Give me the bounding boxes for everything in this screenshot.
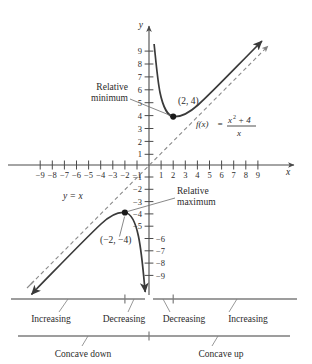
relative-maximum-point-label: (−2, −4) [100,235,131,246]
relative-maximum-point-leader [120,217,125,237]
svg-text:7: 7 [232,170,236,180]
svg-text:4: 4 [195,170,200,180]
svg-text:−6: −6 [156,234,165,244]
svg-text:−7: −7 [60,170,69,180]
svg-text:3: 3 [183,170,187,180]
svg-text:−7: −7 [156,246,165,256]
relative-minimum-point-label: (2, 4) [178,96,199,107]
concavity-label-0: Concave down [55,349,112,359]
svg-text:7: 7 [138,72,142,82]
svg-text:2: 2 [138,137,142,147]
svg-text:−2: −2 [133,184,142,194]
relative-minimum-label-line1: Relative [96,82,128,92]
svg-text:−2: −2 [120,170,129,180]
svg-text:−4: −4 [96,170,106,180]
svg-text:−9: −9 [156,271,165,281]
svg-text:5: 5 [207,170,211,180]
svg-text:1: 1 [138,149,142,159]
y-tick-labels-upper: 9 8 7 6 5 4 3 2 1 −1 −2 −3 −4 −5 [133,46,143,231]
svg-text:6: 6 [219,170,223,180]
svg-text:8: 8 [244,170,248,180]
svg-text:−3: −3 [108,170,117,180]
svg-text:−3: −3 [133,197,142,207]
graph-svg: −9 −8 −7 −6 −5 −4 −3 −2 −1 1 2 3 4 5 6 7… [0,0,312,364]
svg-text:−8: −8 [156,258,165,268]
svg-text:3: 3 [138,124,142,134]
function-formula: f(x) = x 2 + 4 x [196,114,256,138]
x-tick-labels: −9 −8 −7 −6 −5 −4 −3 −2 −1 1 2 3 4 5 6 7… [36,170,260,180]
svg-text:8: 8 [138,59,142,69]
svg-text:1: 1 [159,170,163,180]
asymptote-tail [27,281,34,288]
svg-text:2: 2 [171,170,175,180]
svg-text:9: 9 [138,46,142,56]
function-denominator: x [236,128,241,138]
svg-text:4: 4 [138,111,143,121]
y-axis-label: y [138,20,144,30]
relative-maximum-label-line1: Relative [177,186,209,196]
curve-arrow-lower-left [32,289,37,295]
monotonicity-bar: Increasing Decreasing Decreasing Increas… [11,295,297,325]
svg-text:−6: −6 [72,170,81,180]
function-numerator-exponent: 2 [233,114,236,120]
y-tick-labels-lower: −6 −7 −8 −9 [156,234,165,281]
monotonicity-label-3: Increasing [228,314,268,324]
x-axis-label: x [285,167,291,177]
svg-text:6: 6 [138,85,142,95]
monotonicity-label-0: Increasing [31,314,71,324]
function-equals: = [217,119,223,129]
concavity-bar: Concave down Concave up [18,332,290,360]
svg-text:−8: −8 [48,170,57,180]
svg-text:−9: −9 [36,170,45,180]
relative-minimum-point [170,114,176,120]
relative-maximum-label-line2: maximum [177,197,216,207]
svg-text:−5: −5 [84,170,93,180]
monotonicity-label-1: Decreasing [103,314,146,324]
concavity-label-1: Concave up [198,349,243,359]
function-numerator-rest: + 4 [238,115,251,125]
function-name: f(x) [196,119,209,129]
function-numerator-base: x [227,115,232,125]
figure-graph-rational-function: −9 −8 −7 −6 −5 −4 −3 −2 −1 1 2 3 4 5 6 7… [0,0,312,364]
relative-minimum-label-line2: minimum [91,93,129,103]
curve-arrow-down-vertical [145,286,146,292]
curve-right-branch [154,41,262,117]
y-equals-x-label: y = x [62,191,83,201]
svg-text:9: 9 [256,170,260,180]
svg-text:−4: −4 [133,209,143,219]
monotonicity-label-2: Decreasing [163,314,206,324]
relative-maximum-point [122,209,128,215]
